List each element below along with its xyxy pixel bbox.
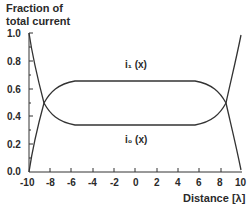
series-i0-curve bbox=[29, 35, 241, 172]
plot-area bbox=[0, 0, 250, 208]
series-i1-curve bbox=[29, 33, 241, 170]
axes bbox=[29, 33, 242, 172]
